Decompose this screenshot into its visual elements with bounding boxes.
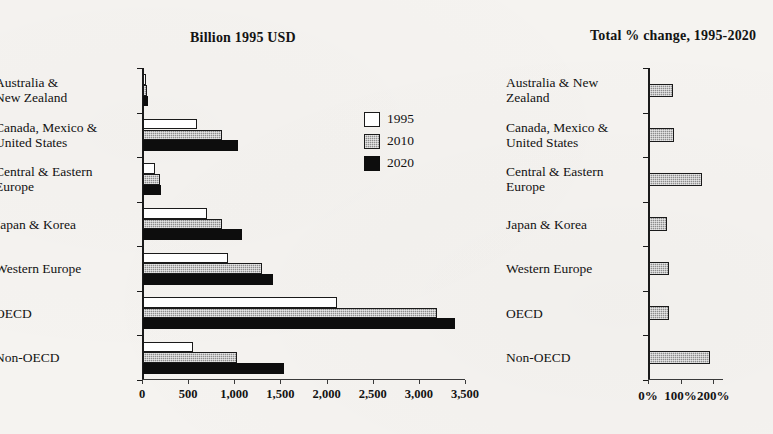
bar-total-change-1995-2020 <box>649 217 667 230</box>
legend-label-2020: 2020 <box>387 155 414 171</box>
bar-2010 <box>143 352 237 363</box>
legend-item-2020: 2020 <box>364 152 414 174</box>
x-tick-label: 200% <box>697 388 730 404</box>
chart-page: Billion 1995 USD 05001,0001,5002,0002,50… <box>0 0 773 434</box>
category-label: Canada, Mexico & United States <box>0 120 135 150</box>
y-tick <box>137 291 142 292</box>
x-tick-label: 500 <box>179 387 198 402</box>
y-tick <box>643 113 648 114</box>
left-chart-panel: Billion 1995 USD 05001,0001,5002,0002,50… <box>0 0 500 434</box>
bar-1995 <box>143 74 146 85</box>
x-tick-label: 1,000 <box>220 387 248 402</box>
y-tick <box>643 202 648 203</box>
x-tick <box>713 380 714 384</box>
y-tick <box>643 246 648 247</box>
y-tick <box>137 246 142 247</box>
bar-2010 <box>143 308 437 319</box>
x-tick-label: 2,000 <box>313 387 341 402</box>
x-tick <box>648 380 649 384</box>
category-label: OECD <box>0 306 135 321</box>
category-label: Japan & Korea <box>0 217 135 232</box>
category-label: Non-OECD <box>506 350 641 365</box>
y-tick <box>137 335 142 336</box>
x-tick-label: 3,500 <box>451 387 479 402</box>
bar-total-change-1995-2020 <box>649 351 710 364</box>
category-label: Japan & Korea <box>506 217 641 232</box>
x-tick-label: 1,500 <box>266 387 294 402</box>
x-tick-label: 0 <box>139 387 145 402</box>
x-tick <box>681 380 682 384</box>
bar-total-change-1995-2020 <box>649 262 669 275</box>
bar-2010 <box>143 219 222 230</box>
x-tick-label: 3,000 <box>405 387 433 402</box>
bar-2020 <box>143 185 161 196</box>
legend-label-1995: 1995 <box>387 111 414 127</box>
legend-item-1995: 1995 <box>364 108 414 130</box>
bar-total-change-1995-2020 <box>649 173 702 186</box>
x-tick-label: 2,500 <box>359 387 387 402</box>
legend-swatch-2010 <box>364 134 380 149</box>
series-legend: 1995 2010 2020 <box>364 108 414 174</box>
category-label: Canada, Mexico & United States <box>506 120 641 150</box>
category-label: Central & Eastern Europe <box>506 164 641 194</box>
bar-1995 <box>143 208 207 219</box>
y-tick <box>137 68 142 69</box>
bar-2020 <box>143 318 455 329</box>
y-tick <box>137 202 142 203</box>
y-tick <box>643 291 648 292</box>
x-tick <box>280 380 281 384</box>
legend-swatch-1995 <box>364 112 380 127</box>
left-x-axis <box>142 379 465 380</box>
bar-2020 <box>143 96 148 107</box>
category-label: Australia & New Zealand <box>506 75 641 105</box>
bar-2020 <box>143 229 242 240</box>
right-chart-panel: Total % change, 1995-2020 0%100%200%Aust… <box>500 0 773 434</box>
x-tick <box>373 380 374 384</box>
left-chart-title: Billion 1995 USD <box>190 30 296 46</box>
bar-2010 <box>143 174 160 185</box>
y-tick <box>643 157 648 158</box>
category-label: Western Europe <box>0 261 135 276</box>
x-tick-label: 100% <box>664 388 697 404</box>
y-tick <box>643 68 648 69</box>
y-tick <box>643 380 648 381</box>
x-tick-label: 0% <box>638 388 658 404</box>
bar-total-change-1995-2020 <box>649 306 669 319</box>
x-tick <box>327 380 328 384</box>
category-label: OECD <box>506 306 641 321</box>
y-tick <box>643 335 648 336</box>
bar-1995 <box>143 163 155 174</box>
x-tick <box>188 380 189 384</box>
legend-label-2010: 2010 <box>387 133 414 149</box>
x-tick <box>234 380 235 384</box>
x-tick <box>465 380 466 384</box>
legend-item-2010: 2010 <box>364 130 414 152</box>
category-label: Australia & New Zealand <box>0 75 135 105</box>
right-plot-area: 0%100%200%Australia & New ZealandCanada,… <box>648 68 723 380</box>
bar-total-change-1995-2020 <box>649 84 673 97</box>
bar-2010 <box>143 263 262 274</box>
category-label: Central & Eastern Europe <box>0 164 135 194</box>
bar-2010 <box>143 85 147 96</box>
y-tick <box>137 380 142 381</box>
y-tick <box>137 113 142 114</box>
category-label: Non-OECD <box>0 350 135 365</box>
bar-2020 <box>143 140 238 151</box>
category-label: Western Europe <box>506 261 641 276</box>
legend-swatch-2020 <box>364 156 380 171</box>
x-tick <box>142 380 143 384</box>
y-tick <box>137 157 142 158</box>
bar-1995 <box>143 297 337 308</box>
bar-2020 <box>143 274 273 285</box>
bar-2020 <box>143 363 284 374</box>
bar-total-change-1995-2020 <box>649 128 674 141</box>
bar-1995 <box>143 253 228 264</box>
left-plot-area: 05001,0001,5002,0002,5003,0003,500Austra… <box>142 68 465 380</box>
bar-1995 <box>143 342 193 353</box>
right-chart-title: Total % change, 1995-2020 <box>590 28 756 44</box>
x-tick <box>419 380 420 384</box>
right-x-axis <box>648 379 723 380</box>
bar-1995 <box>143 119 197 130</box>
bar-2010 <box>143 130 222 141</box>
